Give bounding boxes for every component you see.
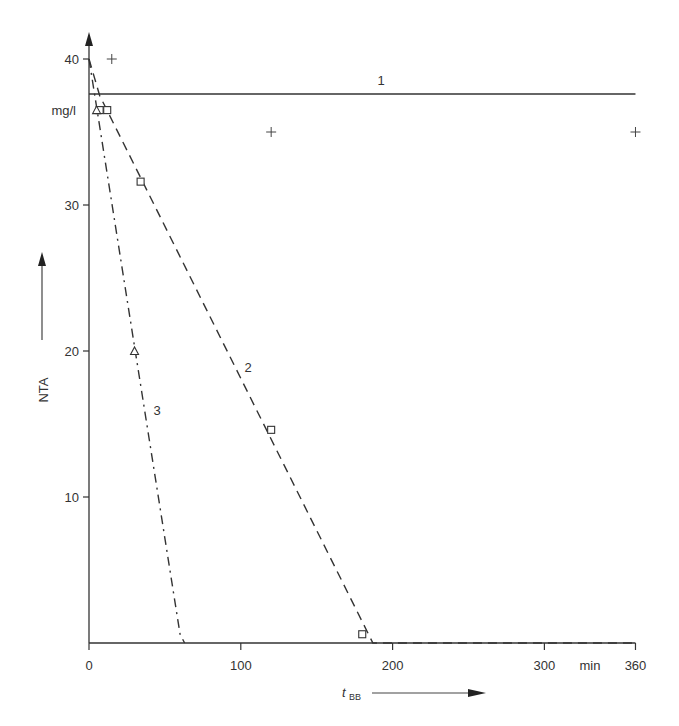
x-tick-label: 0 (85, 658, 92, 673)
x-tick-label: 100 (230, 658, 252, 673)
curve-2-line (89, 59, 635, 643)
y-axis-arrow-icon (85, 32, 93, 46)
x-tick-label: 200 (382, 658, 404, 673)
y-tick-label: 20 (65, 344, 79, 359)
markers-group (93, 54, 641, 638)
y-axis-title: NTA (36, 377, 51, 402)
square-marker-icon (268, 426, 275, 433)
series-group (89, 59, 635, 643)
x-unit-label: min (579, 658, 600, 673)
plus-marker-icon (630, 127, 640, 137)
x-title-arrow-icon (468, 689, 486, 697)
triangle-marker-icon (131, 347, 139, 355)
plus-marker-icon (107, 54, 117, 64)
x-tick-label: 300 (534, 658, 556, 673)
square-marker-icon (137, 178, 144, 185)
y-tick-label: 30 (65, 198, 79, 213)
square-marker-icon (104, 107, 111, 114)
curve-2-label: 2 (244, 360, 251, 375)
nta-degradation-chart: 102030400100200300360minmg/lNTAtBB 123 (0, 0, 679, 726)
square-marker-icon (359, 631, 366, 638)
labels-group: 123 (153, 73, 384, 418)
y-title-arrow-icon (38, 252, 46, 266)
x-tick-label: 360 (625, 658, 647, 673)
y-unit-label: mg/l (51, 103, 76, 118)
plus-marker-icon (266, 127, 276, 137)
curve-3-label: 3 (153, 403, 160, 418)
axes: 102030400100200300360minmg/lNTAtBB (36, 32, 646, 702)
y-tick-label: 10 (65, 490, 79, 505)
x-axis-title: t (342, 685, 347, 700)
curve-1-label: 1 (377, 73, 384, 88)
y-tick-label: 40 (65, 52, 79, 67)
x-axis-title-subscript: BB (349, 692, 361, 702)
